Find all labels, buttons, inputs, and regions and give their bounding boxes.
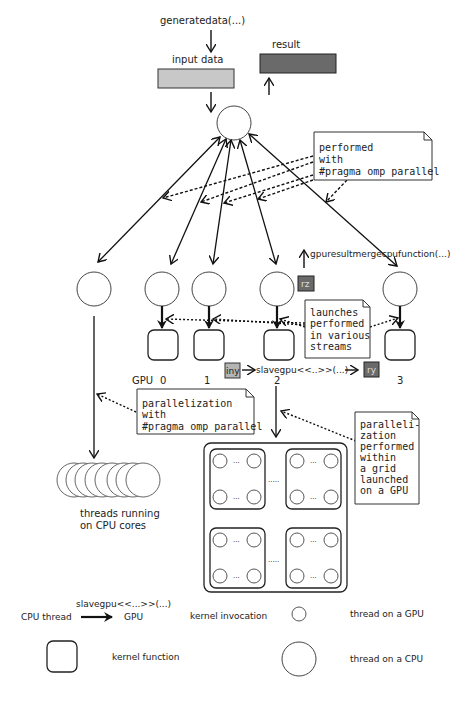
svg-text:...: ... xyxy=(310,493,317,501)
stream-pointer-3 xyxy=(370,318,398,327)
dotted-pointer-4 xyxy=(258,180,313,199)
legend-cpu-thread: CPU thread xyxy=(21,612,72,622)
merge-function-label: gpuresultmergecpufunction(...) xyxy=(310,249,450,259)
kernel-function-gpu0 xyxy=(148,330,178,360)
svg-text:...: ... xyxy=(310,572,317,580)
svg-text:a grid: a grid xyxy=(360,463,396,474)
svg-text:...: ... xyxy=(310,457,317,465)
legend-gpu: GPU xyxy=(124,612,143,622)
generatedata-label: generatedata(...) xyxy=(160,15,245,26)
svg-text:in various: in various xyxy=(310,330,370,341)
svg-text:paralleli-: paralleli- xyxy=(360,419,420,430)
note-omp-top: performed with #pragma omp parallel xyxy=(314,132,439,180)
svg-text:...: ... xyxy=(233,493,240,501)
legend-gpu-thread-icon xyxy=(292,607,306,621)
gpu1-controller-thread xyxy=(192,272,226,306)
cpu-worker-thread xyxy=(77,272,111,306)
dotted-pointer-1 xyxy=(163,156,313,198)
gpu-index-0: 0 xyxy=(160,375,166,386)
arrow-master-cpu-worker xyxy=(98,137,220,262)
kernel-function-gpu1 xyxy=(194,330,224,360)
legend-thread-on-cpu: thread on a CPU xyxy=(350,654,423,664)
svg-text:on a GPU: on a GPU xyxy=(360,485,408,496)
svg-text:...: ... xyxy=(233,572,240,580)
legend: slavegpu<<...>>(...) CPU thread GPU kern… xyxy=(21,599,424,676)
dotted-pointer-5 xyxy=(326,180,347,202)
gpu-index-1: 1 xyxy=(204,375,210,386)
gpu-grid: ... ... ... ... ... ... ... ... ..... ..… xyxy=(204,443,347,592)
rz-label: rz xyxy=(301,279,310,289)
legend-cpu-thread-icon xyxy=(282,642,316,676)
svg-text:parallelization: parallelization xyxy=(142,398,232,409)
gpu-index-2: 2 xyxy=(274,375,280,386)
kernel-call-label: slavegpu<<..>>(...) xyxy=(256,365,348,375)
kernel-function-gpu3 xyxy=(385,330,415,360)
arrow-master-gpu1 xyxy=(213,140,231,264)
svg-text:streams: streams xyxy=(310,341,352,352)
gpu-index-3: 3 xyxy=(397,375,403,386)
svg-text:performed: performed xyxy=(360,441,414,452)
svg-text:performed: performed xyxy=(319,142,373,153)
input-data-box xyxy=(158,69,234,88)
threads-label-line1: threads running xyxy=(80,508,160,519)
svg-text:zation: zation xyxy=(360,430,396,441)
kernel-function-gpu2 xyxy=(264,330,294,360)
master-cpu-thread xyxy=(217,106,251,140)
note-omp-left: parallelization with #pragma omp paralle… xyxy=(137,389,262,434)
svg-text:performed: performed xyxy=(310,318,364,329)
arrow-master-gpu2 xyxy=(240,140,276,264)
note-streams: launches performed in various streams xyxy=(305,300,370,358)
legend-kernel-function: kernel function xyxy=(112,652,179,662)
dotted-pointer-omp-left xyxy=(97,394,136,412)
result-label: result xyxy=(272,39,300,50)
gpu0-controller-thread xyxy=(145,272,179,306)
arrow-master-gpu0 xyxy=(171,139,226,264)
result-box xyxy=(260,54,336,73)
svg-text:...: ... xyxy=(233,536,240,544)
parallel-architecture-diagram: generatedata(...) input data result perf… xyxy=(0,0,467,707)
note-grid: paralleli- zation performed within a gri… xyxy=(355,412,420,504)
threads-label-line2: on CPU cores xyxy=(80,520,146,531)
dotted-pointer-2 xyxy=(201,162,313,202)
svg-text:...: ... xyxy=(310,536,317,544)
gpu-label: GPU xyxy=(132,375,153,386)
svg-text:#pragma omp parallel: #pragma omp parallel xyxy=(142,421,262,432)
legend-thread-on-gpu: thread on a GPU xyxy=(350,609,424,619)
svg-text:with: with xyxy=(319,154,343,165)
gpu3-controller-thread xyxy=(383,272,417,306)
gpu2-controller-thread xyxy=(260,272,294,306)
svg-text:.....: ..... xyxy=(268,476,279,484)
legend-kernel-function-icon xyxy=(47,641,77,672)
svg-text:with: with xyxy=(142,409,166,420)
svg-text:#pragma omp parallel: #pragma omp parallel xyxy=(319,166,439,177)
cpu-threads-cluster xyxy=(57,463,160,497)
legend-kernel-invocation: kernel invocation xyxy=(190,611,267,621)
svg-text:.....: ..... xyxy=(268,556,279,564)
svg-text:within: within xyxy=(360,452,396,463)
svg-text:launches: launches xyxy=(310,307,358,318)
ry-label: ry xyxy=(367,365,377,375)
svg-text:...: ... xyxy=(233,457,240,465)
dotted-pointer-grid xyxy=(281,411,356,441)
iny-label: iny xyxy=(226,366,240,376)
input-data-label: input data xyxy=(172,54,223,65)
svg-text:launched: launched xyxy=(360,474,408,485)
legend-kernel-call: slavegpu<<...>>(...) xyxy=(76,599,171,609)
